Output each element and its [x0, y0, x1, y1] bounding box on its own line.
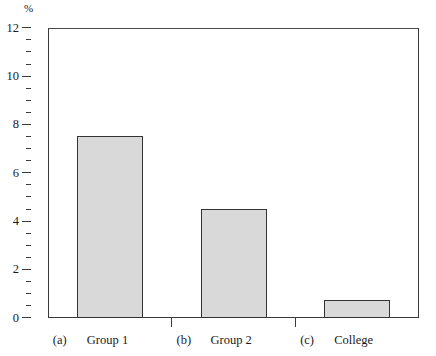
y-axis-minor-tick	[26, 257, 31, 258]
x-axis-label-group: (b)Group 2	[177, 331, 291, 349]
y-axis-minor-tick	[26, 160, 31, 161]
y-axis-major-tick	[22, 76, 31, 77]
x-axis-label-text: College	[334, 333, 373, 347]
bar	[77, 136, 143, 318]
y-axis-tick-label: 8	[13, 118, 19, 131]
bar-chart: % 024681012 (a)Group 1(b)Group 2(c)Colle…	[0, 0, 436, 356]
y-axis-minor-tick	[26, 112, 31, 113]
y-axis-major-tick	[22, 269, 31, 270]
y-axis-minor-tick	[26, 209, 31, 210]
y-axis-minor-tick	[26, 100, 31, 101]
x-axis-group-separator-tick	[295, 318, 296, 327]
bar	[201, 209, 267, 318]
bar	[324, 300, 390, 318]
y-axis-minor-tick	[26, 233, 31, 234]
y-axis-major-tick	[22, 124, 31, 125]
y-axis-major-tick	[22, 172, 31, 173]
y-axis-tick-label: 2	[13, 263, 19, 276]
x-axis-label-group: (c)College	[300, 331, 414, 349]
y-axis-minor-tick	[26, 245, 31, 246]
y-axis: 024681012	[0, 0, 48, 356]
x-axis-label-enumerator: (b)	[177, 333, 211, 347]
x-axis-label-text: Group 1	[87, 333, 128, 347]
y-axis-major-tick	[22, 221, 31, 222]
y-axis-minor-tick	[26, 39, 31, 40]
y-axis-tick-label: 12	[7, 22, 20, 35]
y-axis-minor-tick	[26, 305, 31, 306]
x-axis-label-group: (a)Group 1	[53, 331, 167, 349]
y-axis-tick-label: 0	[13, 312, 19, 325]
y-axis-major-tick	[22, 317, 31, 318]
y-axis-minor-tick	[26, 196, 31, 197]
y-axis-minor-tick	[26, 293, 31, 294]
y-axis-minor-tick	[26, 88, 31, 89]
y-axis-tick-label: 10	[7, 70, 20, 83]
y-axis-minor-tick	[26, 136, 31, 137]
y-axis-minor-tick	[26, 184, 31, 185]
x-axis-label-text: Group 2	[211, 333, 252, 347]
y-axis-minor-tick	[26, 64, 31, 65]
x-axis-group-separator-tick	[171, 318, 172, 327]
y-axis-tick-label: 6	[13, 167, 19, 180]
x-axis-label-enumerator: (a)	[53, 333, 87, 347]
y-axis-minor-tick	[26, 148, 31, 149]
y-axis-major-tick	[22, 27, 31, 28]
x-axis-label-enumerator: (c)	[300, 333, 334, 347]
y-axis-minor-tick	[26, 51, 31, 52]
y-axis-tick-label: 4	[13, 215, 19, 228]
y-axis-minor-tick	[26, 281, 31, 282]
